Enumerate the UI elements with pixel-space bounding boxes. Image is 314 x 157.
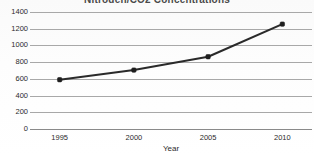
y-axis-tick-labels: 0200400600800100012001400 xyxy=(0,12,28,129)
x-axis-tick-label: 1995 xyxy=(51,133,68,142)
y-axis-tick-label: 800 xyxy=(2,58,28,66)
x-axis-tick-label: 2000 xyxy=(126,133,143,142)
x-axis-tick-label: 2005 xyxy=(200,133,217,142)
plot-area xyxy=(30,12,312,129)
x-axis-baseline xyxy=(30,129,312,130)
y-axis-tick-label: 1400 xyxy=(2,8,28,16)
x-axis-title: Year xyxy=(30,144,312,153)
data-point-marker xyxy=(280,22,284,26)
data-point-marker xyxy=(57,77,61,81)
y-axis-tick-label: 1200 xyxy=(2,25,28,33)
data-point-marker xyxy=(206,55,210,59)
chart-title: Nitrogen/CO2 Concentrations xyxy=(0,0,314,3)
y-axis-tick-label: 600 xyxy=(2,75,28,83)
y-axis-tick-label: 200 xyxy=(2,108,28,116)
line-chart: Nitrogen/CO2 Concentrations 020040060080… xyxy=(0,0,314,157)
series-layer xyxy=(30,12,312,129)
series-line xyxy=(60,24,283,80)
y-axis-tick-label: 400 xyxy=(2,92,28,100)
y-axis-tick-label: 0 xyxy=(2,125,28,133)
y-axis-tick-label: 1000 xyxy=(2,41,28,49)
data-point-marker xyxy=(132,68,136,72)
x-axis-tick-labels: 1995200020052010 xyxy=(30,133,312,143)
x-axis-tick-label: 2010 xyxy=(274,133,291,142)
